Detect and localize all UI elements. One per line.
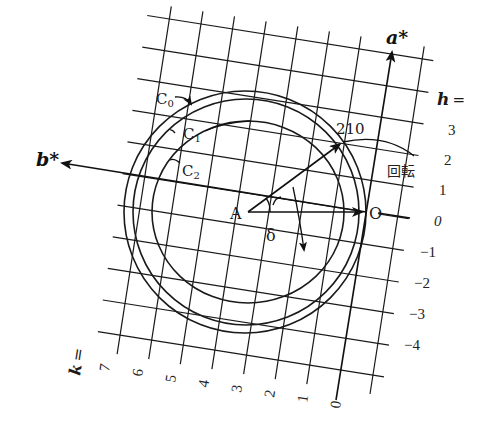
h-axis-labels: h= 3 2 1 0 −1 −2 −3 −4 bbox=[404, 89, 465, 353]
rotation-direction-arrow bbox=[293, 187, 304, 250]
c2-leader bbox=[170, 159, 180, 163]
reciprocal-lattice-grid bbox=[98, 6, 433, 394]
a-star-label: a* bbox=[386, 26, 408, 48]
h-axis-title: h= bbox=[437, 89, 465, 109]
h-label: 0 bbox=[434, 213, 442, 229]
k-label: 2 bbox=[261, 389, 278, 399]
k-label: 0 bbox=[327, 400, 344, 410]
h-label: 2 bbox=[444, 152, 452, 168]
h-label: 1 bbox=[439, 182, 447, 198]
delta-angle-arc bbox=[266, 198, 270, 212]
a-star-axis bbox=[336, 52, 392, 400]
k-label: 3 bbox=[228, 384, 245, 394]
h-label: −2 bbox=[414, 275, 430, 291]
o-tick bbox=[378, 213, 410, 218]
c0-label: C0 bbox=[156, 90, 174, 109]
grid-line bbox=[132, 110, 418, 155]
reflection-210-label: 210 bbox=[336, 120, 365, 138]
h-label: −3 bbox=[409, 306, 425, 322]
b-star-axis bbox=[62, 163, 366, 212]
b-star-label: b* bbox=[36, 148, 59, 170]
grid-line bbox=[137, 79, 423, 124]
k-label: 7 bbox=[96, 362, 113, 372]
k-label: 6 bbox=[129, 367, 146, 377]
h-label: 3 bbox=[448, 122, 456, 138]
k-label: 4 bbox=[195, 378, 212, 388]
grid-line bbox=[379, 214, 409, 219]
delta-label: δ bbox=[266, 226, 276, 245]
c2-label: C2 bbox=[182, 162, 200, 181]
c1-leader bbox=[170, 130, 175, 133]
k-label: 5 bbox=[162, 374, 179, 384]
point-o-label: O bbox=[369, 204, 382, 223]
k-axis-title: k= bbox=[65, 346, 88, 376]
k-label: 1 bbox=[294, 394, 311, 404]
k-axis-labels: k= 7 6 5 4 3 2 1 0 bbox=[65, 346, 344, 409]
ewald-diagram: a* b* A O 210 δ 回転 C0 C1 C2 h= 3 2 1 0 −… bbox=[0, 0, 483, 422]
h-label: −4 bbox=[404, 337, 420, 353]
rotation-label: 回転 bbox=[387, 163, 415, 179]
vector-a-to-210 bbox=[248, 144, 340, 212]
grid-line bbox=[142, 47, 428, 92]
c1-label: C1 bbox=[183, 125, 201, 144]
point-a-label: A bbox=[229, 204, 242, 223]
h-label: −1 bbox=[420, 244, 436, 260]
